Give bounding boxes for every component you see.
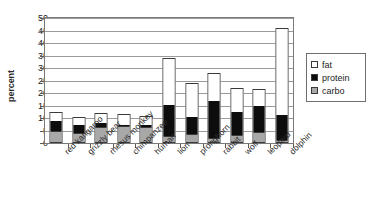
stacked-bar[interactable] [162, 58, 175, 143]
y-axis-title: percent [6, 56, 16, 116]
legend-swatch-icon [311, 74, 318, 81]
bar-segment-fat [276, 29, 287, 115]
legend-label: protein [322, 73, 350, 83]
stacked-bar[interactable] [185, 83, 198, 143]
bar-segment-fat [209, 74, 220, 101]
legend-label: carbo [322, 86, 345, 96]
bar-segment-carbo [186, 134, 197, 142]
bar-segment-fat [163, 59, 174, 105]
bar-segment-protein [231, 112, 242, 135]
bar-slot [45, 18, 68, 143]
bar-slot [248, 18, 271, 143]
bar-segment-fat [186, 84, 197, 117]
legend-item-protein[interactable]: protein [311, 71, 362, 84]
bar-slot [180, 18, 203, 143]
stacked-bar[interactable] [253, 89, 266, 143]
bar-segment-protein [51, 121, 62, 132]
bar-segment-fat [73, 118, 84, 125]
legend-item-carbo[interactable]: carbo [311, 84, 362, 97]
legend-swatch-icon [311, 87, 318, 94]
bar-segment-fat [254, 90, 265, 106]
stacked-bar[interactable] [50, 112, 63, 143]
stacked-bar-chart: percent 05101520253035404550 red kangaro… [0, 0, 374, 211]
bar-slot [225, 18, 248, 143]
stacked-bar[interactable] [275, 28, 288, 143]
bar-segment-protein [186, 117, 197, 134]
bar-slot [270, 18, 293, 143]
bar-segment-protein [254, 106, 265, 132]
bar-segment-fat [231, 89, 242, 112]
chart-legend: fatproteincarbo [306, 53, 366, 102]
bar-segment-carbo [51, 131, 62, 142]
bar-segment-fat [51, 113, 62, 121]
legend-swatch-icon [311, 61, 318, 68]
legend-label: fat [322, 60, 332, 70]
legend-item-fat[interactable]: fat [311, 58, 362, 71]
